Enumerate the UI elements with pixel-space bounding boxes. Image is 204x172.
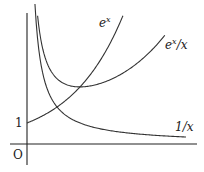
exx-label-tail: /x: [176, 38, 188, 52]
function-plot: O 1 ex ex/x 1/x: [0, 0, 204, 172]
exx-label-base: e: [165, 38, 172, 52]
ex-label: ex: [99, 15, 111, 30]
ex-label-base: e: [99, 16, 106, 30]
exx-label: ex/x: [165, 37, 188, 52]
ex-label-sup: x: [106, 15, 111, 24]
origin-label: O: [13, 148, 23, 162]
axes: [10, 13, 197, 165]
inv-label: 1/x: [175, 120, 194, 134]
y-tick-one-label: 1: [15, 116, 23, 130]
